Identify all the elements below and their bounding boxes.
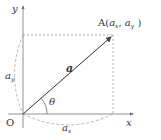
vector-arrow	[23, 37, 111, 114]
x-axis-label: x	[126, 117, 132, 128]
ay-label: ay	[5, 70, 15, 83]
ax-label: ax	[62, 122, 72, 134]
ay-brace-arc	[15, 35, 24, 114]
origin-label: O	[6, 117, 14, 128]
ax-brace-arc	[23, 114, 113, 125]
y-axis-label: y	[11, 3, 18, 14]
angle-arc	[41, 98, 47, 114]
angle-theta-label: θ	[49, 96, 55, 107]
vector-label: a	[66, 62, 73, 75]
point-a-label: A(ax, ay )	[97, 17, 141, 30]
vector-diagram: y x O A(ax, ay ) a θ ay ax	[0, 0, 161, 140]
